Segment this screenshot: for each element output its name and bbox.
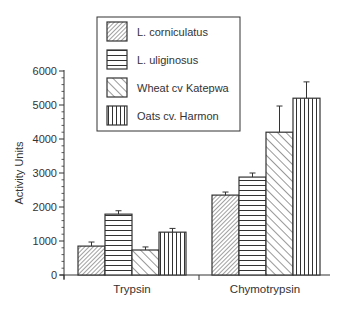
bar-trypsin-1 (105, 211, 132, 275)
bar-chymotrypsin-3 (293, 82, 320, 275)
y-tick-label: 0 (51, 269, 57, 281)
legend-label: L. uliginosus (137, 54, 199, 66)
y-tick-label: 2000 (33, 201, 57, 213)
legend-label: Wheat cv Katepwa (137, 82, 230, 94)
y-tick-label: 4000 (33, 133, 57, 145)
legend-swatch (107, 106, 127, 125)
x-category-label: Trypsin (113, 283, 150, 295)
bar-trypsin-2 (132, 247, 159, 275)
y-axis-title: Activity Units (13, 141, 25, 204)
bar-chymotrypsin-0 (212, 192, 239, 275)
legend-swatch (107, 22, 127, 41)
bar-trypsin-0 (78, 242, 105, 275)
legend: L. corniculatusL. uliginosusWheat cv Kat… (97, 17, 240, 131)
legend-label: Oats cv. Harmon (137, 110, 219, 122)
legend-swatch (107, 78, 127, 97)
y-tick-label: 3000 (33, 167, 57, 179)
bar-chymotrypsin-2 (266, 106, 293, 275)
x-category-label: Chymotrypsin (230, 283, 300, 295)
legend-label: L. corniculatus (137, 26, 208, 38)
y-tick-label: 1000 (33, 235, 57, 247)
bar-trypsin-3 (159, 228, 186, 275)
legend-swatch (107, 50, 127, 69)
bar-chart: 0100020003000400050006000Activity UnitsT… (0, 0, 338, 310)
bar-chymotrypsin-1 (239, 173, 266, 275)
y-tick-label: 5000 (33, 99, 57, 111)
y-tick-label: 6000 (33, 65, 57, 77)
